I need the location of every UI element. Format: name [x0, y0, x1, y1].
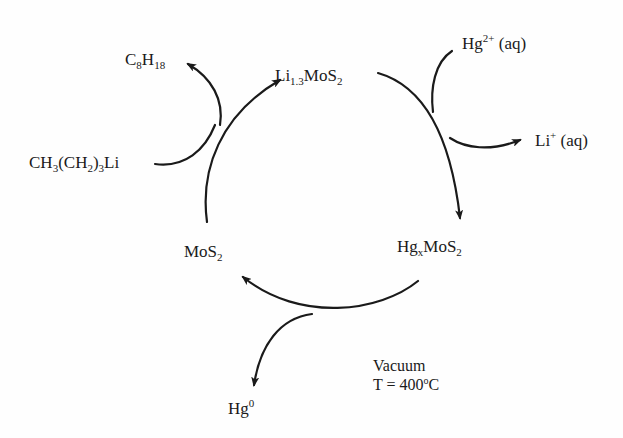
arrow-limos2-to-hgmos2 [378, 73, 460, 218]
arrow-hg-ion-in [432, 51, 452, 112]
reaction-conditions: Vacuum T = 400oC [373, 358, 439, 392]
reagent-hg0: Hg0 [228, 398, 254, 417]
reagent-hg-ion: Hg2+ (aq) [462, 33, 526, 52]
condition-vacuum: Vacuum [373, 358, 439, 373]
node-li-mos2: Li1.3MoS2 [275, 67, 342, 87]
arrow-butyllithium-in [155, 125, 215, 165]
reagent-li-ion: Li+ (aq) [535, 130, 588, 149]
node-hg-mos2: HgxMoS2 [397, 238, 462, 258]
arrow-octane-out [188, 64, 221, 125]
reaction-cycle-diagram: Li1.3MoS2 HgxMoS2 MoS2 CH3(CH2)3Li C8H18… [0, 0, 623, 438]
reagent-octane: C8H18 [125, 51, 165, 71]
condition-temperature: T = 400oC [373, 373, 439, 392]
reagent-butyllithium: CH3(CH2)3Li [29, 154, 119, 174]
arrow-mos2-to-limos2 [206, 80, 280, 222]
arrow-hg0-out [254, 314, 312, 385]
arrow-hgmos2-to-mos2 [243, 277, 418, 308]
node-mos2: MoS2 [184, 243, 223, 263]
arrow-li-ion-out [450, 138, 520, 147]
